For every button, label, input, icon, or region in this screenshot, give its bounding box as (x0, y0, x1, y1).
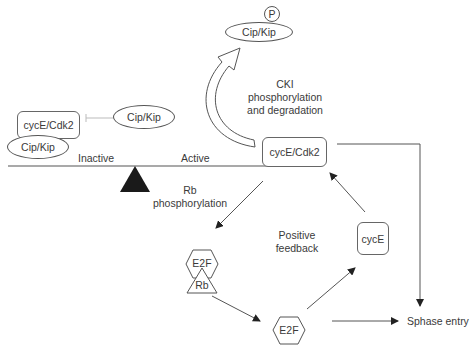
cyce-cdk2-active-node: cycE/Cdk2 (262, 137, 327, 167)
positive-feedback-label: Positive feedback (262, 229, 332, 255)
e2f-bound-label: E2F (186, 257, 218, 269)
inactive-label: Inactive (78, 152, 114, 165)
feedback-line2: feedback (262, 242, 332, 255)
cki-line1: CKI (240, 78, 330, 91)
cip-kip-phosphorylated-node: Cip/Kip (225, 22, 293, 42)
cip-kip-phosphorylated-label: Cip/Kip (242, 26, 276, 38)
cki-line3: and degradation (240, 104, 330, 117)
cyce-cdk2-active-label: cycE/Cdk2 (269, 146, 319, 158)
rb-phosphorylation-label: Rb phosphorylation (150, 184, 230, 210)
fulcrum-triangle-icon (120, 166, 150, 192)
cip-kip-bound-label: Cip/Kip (21, 141, 55, 153)
active-label: Active (181, 152, 210, 165)
feedback-line1: Positive (262, 229, 332, 242)
rb-label: Rb (187, 279, 217, 291)
rb-line1: Rb (150, 184, 230, 197)
cyce-node: cycE (357, 222, 389, 255)
cip-kip-free-node: Cip/Kip (113, 105, 175, 129)
e2f-to-cyce-arrow (307, 268, 355, 309)
e2f-free-label: E2F (273, 324, 305, 336)
cki-label: CKI phosphorylation and degradation (240, 78, 330, 117)
phospho-marker-label: P (268, 8, 275, 20)
cki-line2: phosphorylation (240, 91, 330, 104)
phospho-marker: P (264, 6, 280, 22)
rb-line2: phosphorylation (150, 197, 230, 210)
cip-kip-free-label: Cip/Kip (127, 111, 161, 123)
diagram-canvas (0, 0, 472, 348)
cyce-cdk2-inactive-label: cycE/Cdk2 (23, 119, 73, 131)
cyce-to-cdk2-arrow (330, 173, 365, 212)
e2frb-to-e2f-arrow (212, 296, 260, 321)
cyce-label: cycE (362, 233, 385, 245)
sphase-entry-label: Sphase entry (407, 315, 469, 328)
cip-kip-bound-node: Cip/Kip (7, 135, 69, 159)
